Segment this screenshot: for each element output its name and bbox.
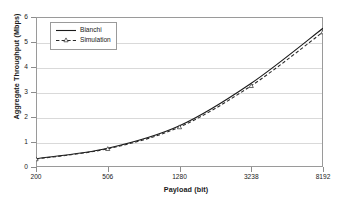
data-point-marker [321,30,323,34]
legend-item-simulation: Simulation [55,36,111,45]
x-tick-mark [36,167,37,172]
legend-label-bianchi: Bianchi [80,27,102,34]
x-tick-mark [323,167,324,172]
x-tick-label: 200 [16,174,56,181]
legend-solid-line-icon [55,26,77,35]
y-tick-label: 4 [16,64,28,71]
legend-item-bianchi: Bianchi [55,26,111,35]
x-axis-title: Payload (bit) [36,185,336,194]
legend-label-simulation: Simulation [80,37,111,44]
x-tick-mark [251,167,252,172]
series-line-simulation [36,32,323,159]
x-tick-label: 3238 [231,174,271,181]
y-tick-label: 1 [16,139,28,146]
y-tick-label: 2 [16,114,28,121]
y-tick-label: 3 [16,89,28,96]
y-tick-label: 0 [16,164,28,171]
chart-figure: Aggregate Throughput (Mbps) 0123456 2005… [0,0,344,204]
y-tick-label: 5 [16,39,28,46]
y-tick-label: 6 [16,14,28,21]
chart-legend: Bianchi Simulation [50,22,117,50]
x-tick-label: 8192 [303,174,343,181]
x-tick-mark [108,167,109,172]
legend-dashed-line-marker-icon [55,36,77,45]
x-tick-label: 506 [88,174,128,181]
x-tick-label: 1280 [160,174,200,181]
x-tick-mark [180,167,181,172]
